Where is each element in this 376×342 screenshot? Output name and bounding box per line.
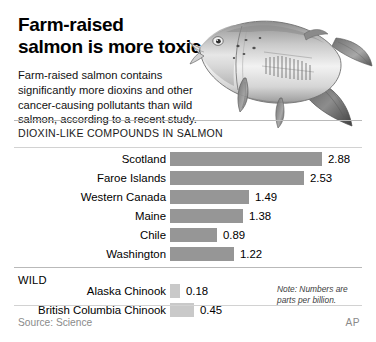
divider-wild-section [14, 267, 362, 268]
bar-label: Alaska Chinook [87, 285, 166, 297]
table-row: Maine 1.38 [0, 208, 376, 227]
table-row: Scotland 2.88 [0, 151, 376, 170]
bar-label: Western Canada [81, 191, 166, 203]
divider-footer [14, 305, 362, 306]
bar-western-canada [170, 190, 249, 204]
chart-title: DIOXIN-LIKE COMPOUNDS IN SALMON [18, 127, 223, 139]
infographic-root: Farm-raised salmon is more toxic Farm-ra… [0, 0, 376, 342]
bar-label: Scotland [122, 153, 166, 165]
divider-above-chart-title [14, 120, 362, 121]
bar-alaska-chinook [170, 284, 180, 298]
bar-value: 1.38 [249, 210, 271, 222]
bar-value: 0.18 [186, 285, 208, 297]
bar-faroe-islands [170, 171, 304, 185]
bar-value: 1.49 [255, 191, 277, 203]
salmon-illustration [186, 2, 376, 134]
bar-label: Faroe Islands [97, 172, 166, 184]
table-row: Faroe Islands 2.53 [0, 170, 376, 189]
bar-scotland [170, 152, 322, 166]
bar-value: 2.88 [328, 153, 350, 165]
divider-below-chart-title [14, 147, 362, 148]
bar-value: 2.53 [310, 172, 332, 184]
bar-label: Chile [140, 229, 166, 241]
table-row: Chile 0.89 [0, 227, 376, 246]
table-row: Washington 1.22 [0, 246, 376, 265]
chart-note-line-1: Note: Numbers are [277, 284, 372, 295]
bar-label: Maine [135, 210, 166, 222]
bar-chile [170, 228, 217, 242]
source-label: Source: Science [18, 317, 92, 328]
wild-group-label: WILD [18, 274, 47, 286]
bar-washington [170, 247, 234, 261]
chart-note: Note: Numbers are parts per billion. [277, 284, 372, 306]
chart-note-line-2: parts per billion. [277, 295, 372, 306]
table-row: Western Canada 1.49 [0, 189, 376, 208]
credit-label: AP [346, 317, 360, 328]
bar-value: 1.22 [240, 248, 262, 260]
bar-label: Washington [106, 248, 166, 260]
bar-maine [170, 209, 243, 223]
bar-value: 0.89 [223, 229, 245, 241]
